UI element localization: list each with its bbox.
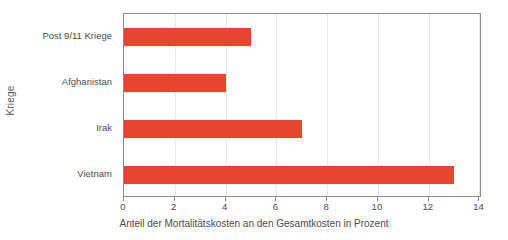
x-axis-title: Anteil der Mortalitätskosten an den Gesa… (0, 218, 508, 229)
gridline (479, 14, 480, 196)
y-axis-tick-labels: Post 9/11 KriegeAfghanistanIrakVietnam (18, 13, 118, 197)
x-axis-tick-label: 0 (120, 202, 125, 212)
y-axis-title: Kriege (0, 0, 20, 200)
y-axis-title-text: Kriege (5, 85, 16, 115)
bar (124, 28, 251, 46)
x-axis-tick-label: 14 (473, 202, 484, 212)
x-axis-tick-label: 10 (372, 202, 383, 212)
y-axis-tick-label: Irak (96, 123, 112, 133)
x-axis-tick-label: 12 (422, 202, 433, 212)
bar-chart: Kriege Post 9/11 KriegeAfghanistanIrakVi… (0, 0, 508, 240)
bar (124, 74, 226, 92)
bar (124, 166, 454, 184)
y-axis-tick-label: Post 9/11 Kriege (42, 31, 112, 41)
plot-area (123, 13, 481, 197)
x-axis-tick-label: 6 (273, 202, 278, 212)
bar (124, 120, 302, 138)
x-axis-tick-label: 4 (222, 202, 227, 212)
y-axis-tick-label: Vietnam (77, 169, 112, 179)
x-axis-ticks: 02468101214 (123, 197, 481, 217)
x-axis-tick-label: 2 (171, 202, 176, 212)
y-axis-tick-label: Afghanistan (62, 77, 112, 87)
x-axis-tick-label: 8 (323, 202, 328, 212)
